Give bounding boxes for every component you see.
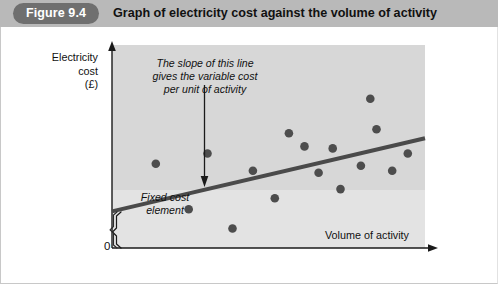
- y-axis-label-line-2: cost: [78, 65, 98, 77]
- fixed-cost-annotation-line-1: Fixed cost: [141, 191, 189, 203]
- data-point: [314, 169, 323, 178]
- figure-container: Figure 9.4 Graph of electricity cost aga…: [0, 0, 498, 284]
- data-point: [328, 144, 337, 153]
- data-point: [357, 161, 366, 170]
- y-axis-label-line-1: Electricity: [52, 51, 98, 63]
- data-point: [300, 142, 309, 151]
- data-point: [404, 149, 413, 158]
- figure-number-badge: Figure 9.4: [13, 3, 99, 24]
- data-point: [271, 194, 280, 203]
- chart-area: Electricity cost (£) Volume of activity …: [0, 27, 498, 284]
- data-point: [388, 167, 397, 176]
- x-axis-label: Volume of activity: [325, 229, 409, 241]
- data-point: [372, 125, 381, 134]
- x-axis-arrowhead: [428, 244, 438, 252]
- data-point: [336, 185, 345, 194]
- figure-title: Graph of electricity cost against the vo…: [113, 0, 437, 27]
- y-axis-label-line-3: (£): [85, 78, 98, 90]
- fixed-cost-annotation-line-2: element: [146, 204, 184, 216]
- slope-annotation-line-2: gives the variable cost: [153, 70, 258, 82]
- figure-header-bar: Figure 9.4 Graph of electricity cost aga…: [0, 0, 498, 27]
- data-point: [366, 94, 375, 103]
- data-point: [228, 224, 237, 233]
- slope-annotation: The slope of this line gives the variabl…: [130, 57, 280, 97]
- data-point: [249, 167, 258, 176]
- slope-annotation-line-3: per unit of activity: [164, 83, 246, 95]
- fixed-cost-annotation: Fixed cost element: [120, 191, 210, 217]
- slope-annotation-line-1: The slope of this line: [156, 57, 253, 69]
- y-axis-label: Electricity cost (£): [20, 51, 98, 92]
- figure-number-label: Figure 9.4: [13, 3, 99, 24]
- data-point: [285, 129, 294, 138]
- origin-label: 0: [104, 240, 110, 252]
- data-point: [152, 159, 161, 168]
